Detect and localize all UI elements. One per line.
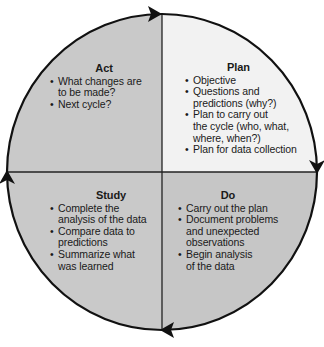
plan-section: Plan •Objective •Questions and predictio… [185,62,310,156]
list-item: •Plan to carry out the cycle (who, what,… [185,109,310,144]
pdsa-cycle-diagram [0,0,324,347]
study-list: •Complete the analysis of the data •Comp… [50,203,160,273]
list-item: •Summarize what was learned [50,249,160,272]
study-title: Study [50,190,160,202]
do-section: Do •Carry out the plan •Document problem… [178,190,288,272]
bullet-icon: • [178,214,182,226]
bullet-icon: • [185,86,189,98]
bullet-icon: • [185,144,189,156]
list-item: •Complete the analysis of the data [50,203,160,226]
act-section: Act •What changes are to be made? •Next … [50,63,150,110]
study-section: Study •Complete the analysis of the data… [50,190,160,272]
plan-title: Plan [185,62,310,74]
bullet-icon: • [185,109,189,121]
bullet-icon: • [178,249,182,261]
list-item: •What changes are to be made? [50,76,150,99]
list-item: •Begin analysis of the data [178,249,288,272]
act-title: Act [50,63,150,75]
do-list: •Carry out the plan •Document problems a… [178,203,288,273]
list-item: •Questions and predictions (why?) [185,86,310,109]
bullet-icon: • [50,76,54,88]
list-item: •Plan for data collection [185,144,310,156]
bullet-icon: • [50,99,54,111]
do-title: Do [178,190,288,202]
list-item: •Next cycle? [50,99,150,111]
act-list: •What changes are to be made? •Next cycl… [50,76,150,111]
list-item: •Document problems and unexpected observ… [178,214,288,249]
plan-list: •Objective •Questions and predictions (w… [185,75,310,156]
bullet-icon: • [50,203,54,215]
list-item: •Compare data to predictions [50,226,160,249]
bullet-icon: • [50,226,54,238]
bullet-icon: • [50,249,54,261]
